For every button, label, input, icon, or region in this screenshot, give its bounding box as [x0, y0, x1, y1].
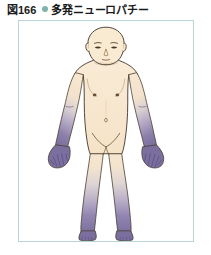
torso	[71, 51, 140, 155]
figure-frame	[18, 20, 194, 242]
body-figure	[48, 27, 163, 241]
left-arm	[48, 73, 83, 168]
right-leg	[108, 148, 133, 241]
nipple-right	[115, 93, 119, 96]
figure-panel: 図166 多発ニューロパチー	[0, 0, 211, 255]
right-arm	[129, 73, 164, 168]
nipple-left	[93, 93, 97, 96]
head	[86, 27, 127, 65]
figure-caption: 図166 多発ニューロパチー	[7, 1, 149, 16]
left-leg	[79, 148, 104, 241]
figure-title: 多発ニューロパチー	[51, 1, 148, 17]
polyneuropathy-body-diagram	[19, 21, 193, 241]
figure-number: 図166	[7, 1, 36, 17]
bullet-dot-icon	[42, 6, 48, 12]
